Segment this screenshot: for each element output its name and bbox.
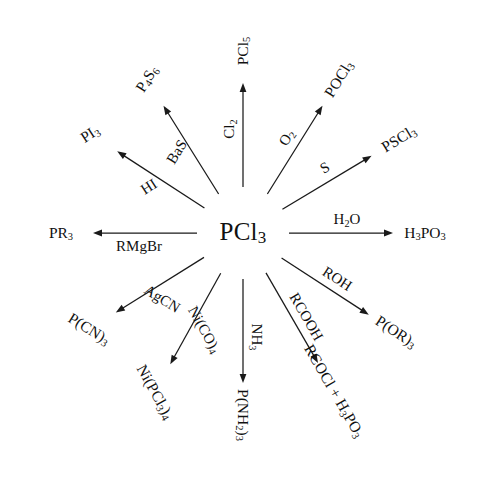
center-species-label: PCl3 <box>220 218 267 249</box>
reaction-arrow-head <box>117 151 126 159</box>
reaction-arrow-head <box>315 106 323 115</box>
reaction-arrow-head <box>164 106 172 115</box>
reaction-arrow-head <box>170 355 177 365</box>
reaction-arrow-head <box>116 305 125 313</box>
product-label-p-nh2-3: P(NH2)3 <box>234 389 252 441</box>
reagent-label-rmgbr: RMgBr <box>116 238 162 255</box>
product-label-h3po3: H3PO3 <box>404 224 446 242</box>
product-label-pr3: PR3 <box>49 224 73 242</box>
reagent-label-h2o: H2O <box>334 211 361 228</box>
reaction-arrow-head <box>359 307 368 315</box>
reaction-arrow-line <box>267 112 318 194</box>
reagent-label-cl2: Cl2 <box>221 119 238 138</box>
reaction-arrow-head <box>240 374 247 383</box>
reaction-arrow-line <box>123 155 204 208</box>
reaction-arrow-head <box>384 230 393 237</box>
reaction-diagram: Cl2PCl5BaSP4S6HIPI3RMgBrPR3AgCNP(CN)3Ni(… <box>0 0 484 503</box>
reagent-label-nh3: NH3 <box>247 324 264 351</box>
reaction-arrow-head <box>362 156 371 164</box>
reaction-arrow-head <box>240 83 247 92</box>
product-label-pcl5: PCl5 <box>234 37 252 66</box>
reaction-arrow-head <box>93 230 102 237</box>
